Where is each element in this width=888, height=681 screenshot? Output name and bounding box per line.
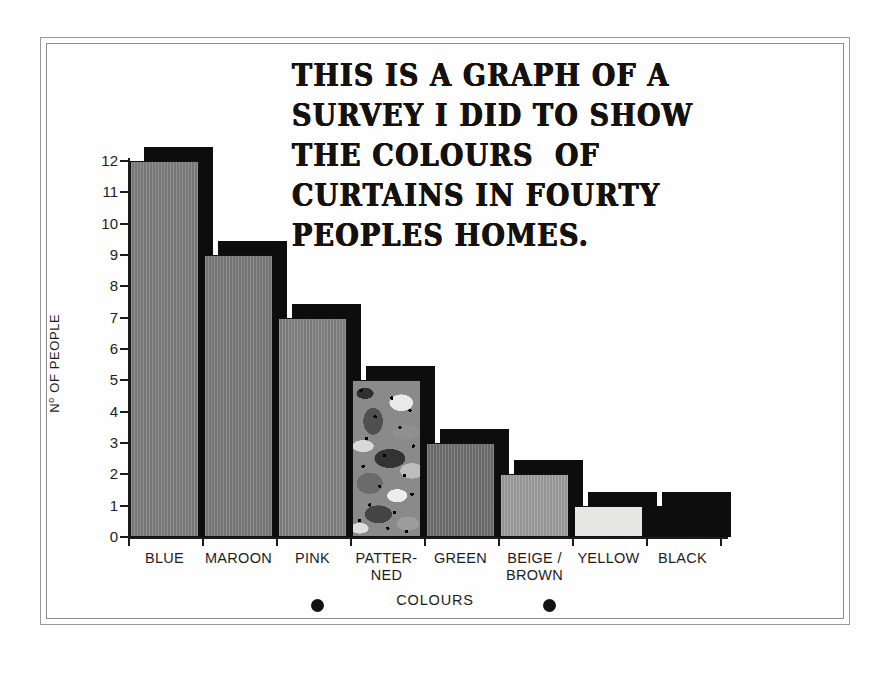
paper-background: THIS IS A GRAPH OF A SURVEY I DID TO SHO… bbox=[0, 0, 888, 681]
title-line-2: SURVEY I DID TO SHOW bbox=[292, 94, 712, 137]
chart-title: THIS IS A GRAPH OF A SURVEY I DID TO SHO… bbox=[292, 54, 712, 254]
title-line-1: THIS IS A GRAPH OF A bbox=[292, 54, 712, 97]
title-line-4: CURTAINS IN FOURTY bbox=[292, 174, 712, 217]
title-line-3: THE COLOURS OF bbox=[292, 134, 712, 177]
title-line-5: PEOPLES HOMES. bbox=[292, 214, 712, 257]
